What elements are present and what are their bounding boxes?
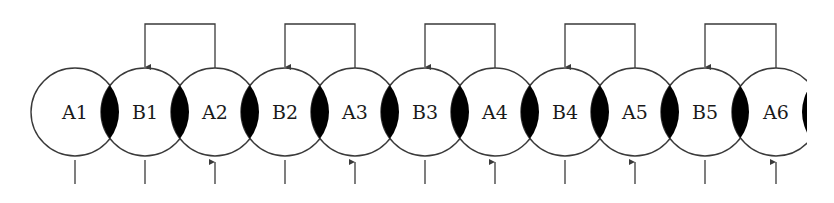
feedback-arrow-a2-to-b1	[145, 24, 215, 68]
node-label-a1: A1	[61, 101, 88, 123]
chain-diagram: A1B1A2B2A3B3A4B4A5B5A6	[0, 0, 834, 203]
node-label-a5: A5	[621, 101, 648, 123]
node-label-b2: B2	[272, 101, 298, 123]
node-label-b5: B5	[692, 101, 718, 123]
node-label-a2: A2	[201, 101, 228, 123]
feedback-arrow-a6-to-b5	[705, 24, 776, 68]
node-label-a6: A6	[762, 101, 789, 123]
node-label-b4: B4	[552, 101, 578, 123]
node-label-b3: B3	[412, 101, 438, 123]
node-label-b1: B1	[132, 101, 158, 123]
feedback-arrow-a5-to-b4	[565, 24, 635, 68]
feedback-arrow-a3-to-b2	[285, 24, 355, 68]
feedback-arrow-a4-to-b3	[425, 24, 495, 68]
diagram-content: A1B1A2B2A3B3A4B4A5B5A6	[31, 24, 820, 184]
node-label-a4: A4	[481, 101, 508, 123]
node-label-a3: A3	[341, 101, 368, 123]
